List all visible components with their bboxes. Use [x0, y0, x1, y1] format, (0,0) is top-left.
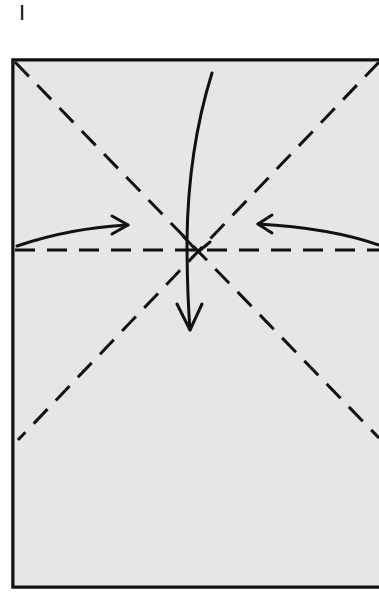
fold-diagram — [0, 0, 379, 599]
